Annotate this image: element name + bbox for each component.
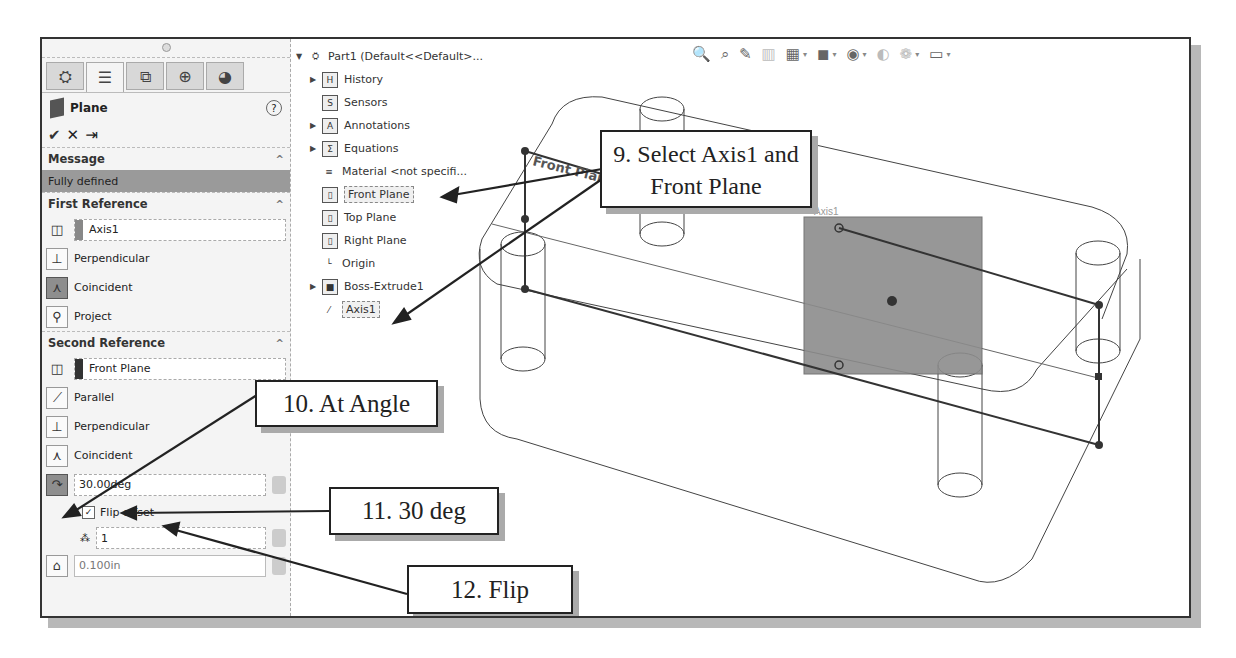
callout-step-11: 11. 30 deg xyxy=(329,487,499,535)
callout-step-12: 12. Flip xyxy=(407,565,573,614)
callout-step-9: 9. Select Axis1 and Front Plane xyxy=(600,130,812,208)
preview-plane xyxy=(804,217,982,374)
solidworks-window: ⛭ ☰ ⧉ ⊕ ◕ Plane ? ✔ ✕ ⇥ Message ^ Fully … xyxy=(40,37,1191,618)
callout-step-10: 10. At Angle xyxy=(255,380,438,427)
callout-text: 9. Select Axis1 and xyxy=(602,138,810,170)
axis1-label: Axis1 xyxy=(814,206,839,217)
graphics-viewport[interactable]: Axis1 Front Plane xyxy=(42,39,1191,618)
callout-text: Front Plane xyxy=(602,170,810,202)
plane-handle-icon xyxy=(887,296,897,306)
